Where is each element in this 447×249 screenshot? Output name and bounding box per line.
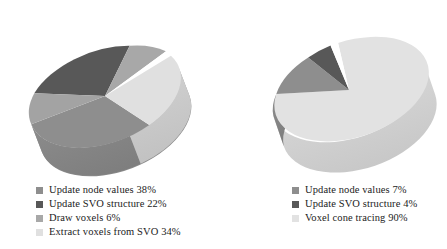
left-chart-panel: Update node values 38% Update SVO struct… bbox=[0, 0, 224, 249]
legend-item-label: Draw voxels 6% bbox=[49, 211, 120, 225]
legend-swatch-icon bbox=[36, 215, 43, 222]
pie-chart-figure: Update node values 38% Update SVO struct… bbox=[0, 0, 447, 249]
legend-item: Update node values 7% bbox=[292, 183, 417, 197]
left-pie-svg bbox=[18, 10, 193, 182]
legend-item: Update SVO structure 4% bbox=[292, 197, 417, 211]
right-pie-chart bbox=[259, 4, 439, 180]
legend-swatch-icon bbox=[292, 201, 299, 208]
legend-item-label: Update node values 7% bbox=[305, 183, 407, 197]
legend-item-label: Update SVO structure 22% bbox=[49, 197, 167, 211]
legend-item: Update SVO structure 22% bbox=[36, 197, 181, 211]
legend-swatch-icon bbox=[292, 215, 299, 222]
right-pie-svg bbox=[259, 4, 439, 180]
legend-item-label: Extract voxels from SVO 34% bbox=[49, 225, 181, 239]
legend-item: Voxel cone tracing 90% bbox=[292, 211, 417, 225]
legend-item: Extract voxels from SVO 34% bbox=[36, 225, 181, 239]
legend-swatch-icon bbox=[36, 201, 43, 208]
legend-swatch-icon bbox=[292, 187, 299, 194]
legend-item-label: Update SVO structure 4% bbox=[305, 197, 417, 211]
legend-item: Update node values 38% bbox=[36, 183, 181, 197]
legend-item: Draw voxels 6% bbox=[36, 211, 181, 225]
left-chart-legend: Update node values 38% Update SVO struct… bbox=[36, 183, 181, 239]
legend-swatch-icon bbox=[36, 187, 43, 194]
left-pie-chart bbox=[18, 10, 193, 182]
legend-swatch-icon bbox=[36, 229, 43, 236]
right-chart-panel: Update node values 7% Update SVO structu… bbox=[223, 0, 447, 249]
legend-item-label: Voxel cone tracing 90% bbox=[305, 211, 408, 225]
legend-item-label: Update node values 38% bbox=[49, 183, 156, 197]
right-chart-legend: Update node values 7% Update SVO structu… bbox=[292, 183, 417, 225]
